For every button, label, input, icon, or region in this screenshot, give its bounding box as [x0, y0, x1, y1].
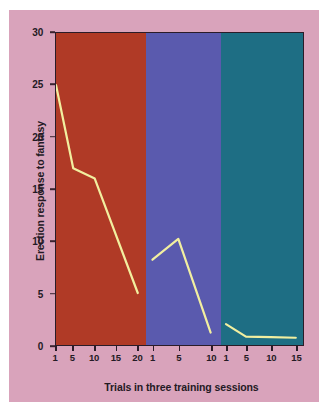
y-tick-label: 10 [17, 236, 43, 247]
data-line [153, 239, 211, 333]
x-tick-mark [179, 346, 181, 351]
series-line-session-3 [221, 33, 303, 345]
data-line [56, 85, 138, 293]
x-tick-label: 10 [259, 352, 283, 363]
panel-session-2 [146, 33, 220, 345]
x-tick-label: 15 [104, 352, 128, 363]
y-tick-label: 25 [17, 79, 43, 90]
y-tick-label: 30 [17, 27, 43, 38]
figure-root: Erection response to fantasy 05101520253… [0, 0, 328, 412]
x-tick-mark [72, 346, 74, 351]
x-tick-mark [137, 346, 139, 351]
plot-area [55, 32, 304, 346]
chart-card: Erection response to fantasy 05101520253… [9, 10, 319, 402]
x-tick-mark [211, 346, 213, 351]
y-tick-label: 0 [17, 341, 43, 352]
series-line-session-1 [56, 33, 146, 345]
x-tick-label: 10 [82, 352, 106, 363]
x-tick-mark [94, 346, 96, 351]
x-tick-mark [296, 346, 298, 351]
y-tick-label: 15 [17, 184, 43, 195]
x-tick-mark [226, 346, 228, 351]
x-tick-label: 1 [141, 352, 165, 363]
x-axis-title: Trials in three training sessions [54, 381, 309, 393]
panel-session-3 [221, 33, 303, 345]
x-tick-mark [116, 346, 118, 351]
x-tick-label: 5 [234, 352, 258, 363]
x-tick-label: 5 [60, 352, 84, 363]
series-line-session-2 [146, 33, 220, 345]
y-tick-label: 20 [17, 131, 43, 142]
x-tick-mark [271, 346, 273, 351]
x-tick-mark [153, 346, 155, 351]
x-tick-mark [55, 346, 57, 351]
y-tick-label: 5 [17, 288, 43, 299]
x-axis: 151015201510151015 [55, 346, 304, 380]
data-line [226, 324, 296, 338]
x-tick-label: 5 [167, 352, 191, 363]
panel-session-1 [56, 33, 146, 345]
x-tick-mark [246, 346, 248, 351]
x-tick-label: 15 [284, 352, 308, 363]
